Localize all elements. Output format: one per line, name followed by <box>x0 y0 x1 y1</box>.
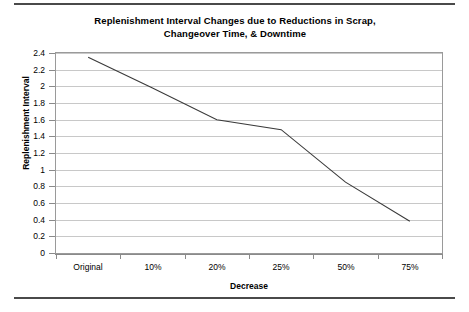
y-axis-tick-label-text: 0.8 <box>11 182 45 190</box>
y-axis-tick-label-text: 1.4 <box>11 132 45 140</box>
y-axis-tick-label: 2 <box>11 82 45 90</box>
x-axis-tick <box>120 254 121 259</box>
y-axis-tick-label-text: 2 <box>11 82 45 90</box>
y-axis-tick-label: 0.6 <box>11 199 45 207</box>
y-axis-tick-label-text: 0 <box>11 249 45 257</box>
y-axis-tick-label-text: 2.2 <box>11 66 45 74</box>
y-axis-tick-label: 0.4 <box>11 216 45 224</box>
x-axis-tick <box>56 254 57 259</box>
series-polyline <box>88 57 410 221</box>
y-axis-tick-label-text: 1.6 <box>11 116 45 124</box>
y-axis-tick-label: 2.4 <box>11 49 45 57</box>
y-axis-tick-label: 1.2 <box>11 149 45 157</box>
y-axis-tick-label: 1.6 <box>11 116 45 124</box>
chart-title-line-2: Changeover Time, & Downtime <box>40 27 430 40</box>
y-axis-tick-label-text: 1 <box>11 166 45 174</box>
y-axis-tick-label: 1.4 <box>11 132 45 140</box>
x-axis-tick-label: 50% <box>337 262 354 272</box>
y-axis-tick-label: 0.2 <box>11 232 45 240</box>
chart-title: Replenishment Interval Changes due to Re… <box>40 14 430 40</box>
x-axis-tick <box>185 254 186 259</box>
x-axis-tick-label: 10% <box>144 262 161 272</box>
x-axis-tick-label: 20% <box>208 262 225 272</box>
y-axis-tick-label: 1.8 <box>11 99 45 107</box>
y-axis-tick-label-text: 0.2 <box>11 232 45 240</box>
y-axis-tick-label-text: 1.2 <box>11 149 45 157</box>
x-axis-title: Decrease <box>55 281 443 291</box>
x-axis-tick <box>378 254 379 259</box>
x-axis-tick <box>442 254 443 259</box>
y-axis-tick-label-text: 0.6 <box>11 199 45 207</box>
divider-bottom <box>14 297 455 299</box>
x-axis-tick <box>249 254 250 259</box>
y-axis-tick-label-text: 1.8 <box>11 99 45 107</box>
divider-top <box>14 3 455 5</box>
plot-area <box>55 52 443 254</box>
x-axis-tick-label: 25% <box>272 262 289 272</box>
y-axis-tick-label-text: 0.4 <box>11 216 45 224</box>
y-axis-tick-label-text: 2.4 <box>11 49 45 57</box>
y-axis-tick-label: 2.2 <box>11 66 45 74</box>
x-axis-tick <box>313 254 314 259</box>
x-axis-tick-label: 75% <box>401 262 418 272</box>
x-axis-tick-label: Original <box>73 262 102 272</box>
chart-title-line-1: Replenishment Interval Changes due to Re… <box>40 14 430 27</box>
y-axis-tick-label: 0 <box>11 249 45 257</box>
y-axis-tick-label: 0.8 <box>11 182 45 190</box>
data-series-line <box>56 53 442 253</box>
plot-inner <box>56 53 442 253</box>
y-axis-tick-label: 1 <box>11 166 45 174</box>
